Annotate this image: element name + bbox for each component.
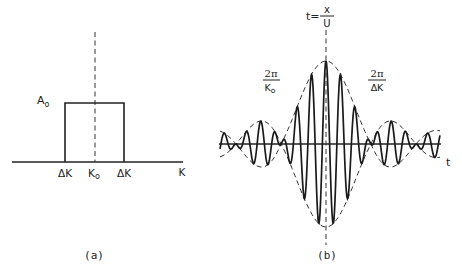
tick-label-right: ΔK [117, 167, 132, 179]
axis-label-t: t [446, 156, 451, 169]
tick-label-left: ΔK [58, 167, 73, 179]
figure: Ao ΔK Ko ΔK K (a) t= x U 2π Ko 2π ΔK t (… [0, 0, 462, 274]
caption-a: (a) [84, 249, 104, 262]
carrier-period-den: Ko [265, 82, 276, 95]
panel-a: Ao ΔK Ko ΔK K (a) [12, 32, 187, 262]
axis-label-k: K [179, 166, 187, 178]
peak-time-num: x [324, 4, 330, 15]
peak-time-den: U [323, 18, 330, 29]
envelope-period-den: ΔK [371, 82, 384, 93]
amplitude-label: Ao [37, 94, 50, 109]
wave-packet [220, 61, 440, 223]
tick-label-center: Ko [88, 167, 100, 181]
caption-b: (b) [317, 249, 337, 262]
envelope-period-num: 2π [371, 68, 384, 79]
panel-b: t= x U 2π Ko 2π ΔK t (b) [219, 4, 451, 262]
peak-time-label: t= [306, 10, 320, 23]
carrier-period-num: 2π [265, 68, 278, 79]
